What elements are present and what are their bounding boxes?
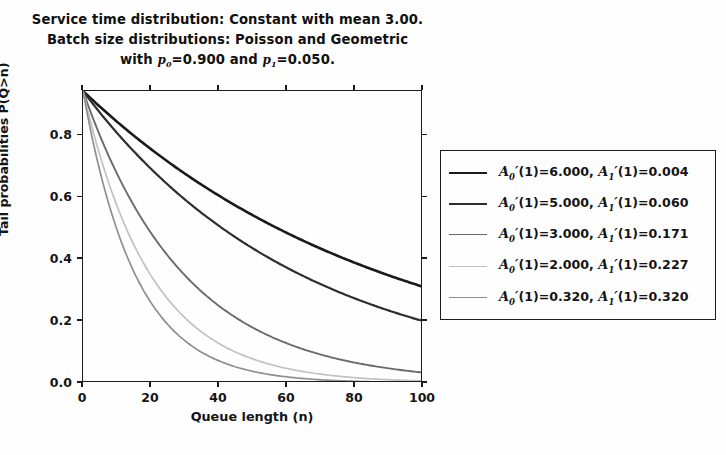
figure-canvas: Service time distribution: Constant with… xyxy=(0,0,726,455)
legend-entry-0[interactable]: A0′(1)=6.000, A1′(1)=0.004 xyxy=(449,159,707,187)
x-tick-mark-bottom-3 xyxy=(285,382,286,387)
y-tick-label-1: 0.2 xyxy=(0,313,72,328)
y-tick-mark-left-3 xyxy=(77,196,82,197)
legend-line-swatch-2 xyxy=(449,234,487,235)
title-p0-value: =0.900 and xyxy=(172,52,263,67)
y-tick-mark-right-4 xyxy=(422,134,427,135)
x-tick-mark-top-1 xyxy=(149,85,150,90)
x-axis-label: Queue length (n) xyxy=(82,409,422,424)
x-tick-mark-bottom-2 xyxy=(217,382,218,387)
y-tick-label-2: 0.4 xyxy=(0,251,72,266)
legend-box: A0′(1)=6.000, A1′(1)=0.004A0′(1)=5.000, … xyxy=(440,150,716,320)
legend-label-0: A0′(1)=6.000, A1′(1)=0.004 xyxy=(499,164,688,182)
title-line-2: Batch size distributions: Poisson and Ge… xyxy=(0,30,455,50)
y-tick-label-0: 0.0 xyxy=(0,375,72,390)
title-p1-symbol: p1 xyxy=(262,53,276,67)
y-tick-mark-left-1 xyxy=(77,319,82,320)
legend-line-swatch-4 xyxy=(449,297,487,298)
x-tick-mark-bottom-1 xyxy=(149,382,150,387)
legend-label-4: A0′(1)=0.320, A1′(1)=0.320 xyxy=(499,289,688,307)
x-tick-label-0: 0 xyxy=(78,390,87,405)
title-p1-value: =0.050. xyxy=(277,52,335,67)
plot-area xyxy=(82,90,422,382)
x-tick-mark-top-0 xyxy=(81,85,82,90)
series-line-0 xyxy=(83,91,422,287)
y-tick-mark-left-4 xyxy=(77,134,82,135)
title-p0-symbol: p0 xyxy=(157,53,171,67)
x-tick-label-1: 20 xyxy=(141,390,158,405)
legend-entry-2[interactable]: A0′(1)=3.000, A1′(1)=0.171 xyxy=(449,221,707,249)
x-tick-label-3: 60 xyxy=(277,390,294,405)
title-line-1: Service time distribution: Constant with… xyxy=(0,10,455,30)
legend-line-swatch-3 xyxy=(449,266,487,267)
y-tick-mark-left-2 xyxy=(77,257,82,258)
title-line-3: with p0=0.900 and p1=0.050. xyxy=(0,50,455,74)
y-tick-mark-right-2 xyxy=(422,257,427,258)
x-tick-mark-bottom-4 xyxy=(353,382,354,387)
series-line-2 xyxy=(83,91,422,373)
y-tick-mark-right-0 xyxy=(422,381,427,382)
legend-entry-4[interactable]: A0′(1)=0.320, A1′(1)=0.320 xyxy=(449,283,707,311)
legend-label-2: A0′(1)=3.000, A1′(1)=0.171 xyxy=(499,226,688,244)
legend-line-swatch-0 xyxy=(449,172,487,174)
legend-label-3: A0′(1)=2.000, A1′(1)=0.227 xyxy=(499,257,688,275)
x-tick-mark-top-2 xyxy=(217,85,218,90)
y-tick-mark-right-1 xyxy=(422,319,427,320)
x-tick-mark-top-5 xyxy=(421,85,422,90)
x-tick-mark-top-3 xyxy=(285,85,286,90)
x-tick-mark-top-4 xyxy=(353,85,354,90)
curve-layer xyxy=(83,91,422,382)
chart-title: Service time distribution: Constant with… xyxy=(0,10,455,74)
x-tick-label-5: 100 xyxy=(409,390,435,405)
y-tick-mark-right-3 xyxy=(422,196,427,197)
x-tick-label-4: 80 xyxy=(345,390,362,405)
legend-line-swatch-1 xyxy=(449,203,487,205)
legend-label-1: A0′(1)=5.000, A1′(1)=0.060 xyxy=(499,195,688,213)
legend-entry-1[interactable]: A0′(1)=5.000, A1′(1)=0.060 xyxy=(449,190,707,218)
x-tick-mark-bottom-0 xyxy=(81,382,82,387)
title-line-3-prefix: with xyxy=(120,52,158,67)
x-tick-label-2: 40 xyxy=(209,390,226,405)
x-tick-mark-bottom-5 xyxy=(421,382,422,387)
legend-entry-3[interactable]: A0′(1)=2.000, A1′(1)=0.227 xyxy=(449,252,707,280)
y-axis-label: Tail probabilities P(Q>n) xyxy=(0,62,11,236)
